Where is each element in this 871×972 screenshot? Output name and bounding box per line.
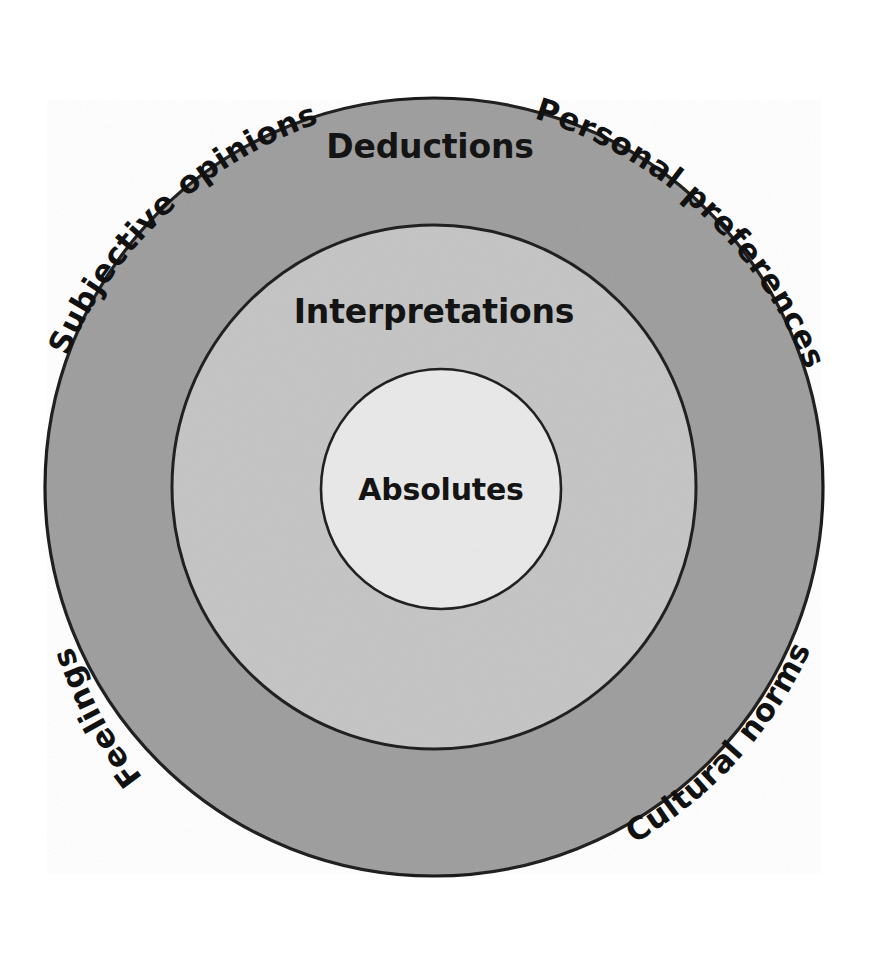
inner-ring-label: Absolutes — [358, 472, 524, 507]
concentric-circles-diagram: Deductions Interpretations Absolutes Sub… — [0, 0, 871, 972]
middle-ring-label: Interpretations — [294, 292, 574, 331]
outer-ring-label: Deductions — [326, 127, 533, 166]
diagram-canvas: Deductions Interpretations Absolutes Sub… — [0, 0, 871, 972]
